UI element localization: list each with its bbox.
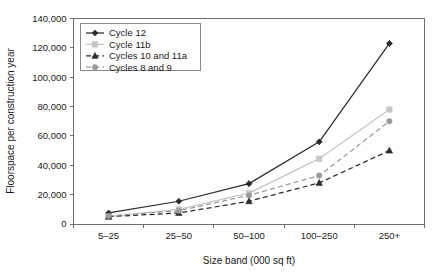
y-tick-label: 140,000	[32, 13, 66, 24]
x-tick-label: 100–250	[301, 230, 338, 241]
legend-label: Cycles 8 and 9	[109, 62, 172, 73]
y-tick-label: 120,000	[32, 42, 66, 53]
y-tick-label: 40,000	[37, 160, 66, 171]
x-axis-title: Size band (000 sq ft)	[203, 255, 295, 266]
data-point-circle	[246, 193, 251, 198]
legend-label: Cycles 10 and 11a	[109, 50, 188, 61]
x-tick-label: 5–25	[98, 230, 119, 241]
y-axis: 020,00040,00060,00080,000100,000120,0001…	[32, 13, 73, 230]
data-point-circle	[106, 213, 111, 218]
data-point-circle	[92, 65, 97, 70]
line-chart: 020,00040,00060,00080,000100,000120,0001…	[0, 0, 437, 272]
data-point-circle	[387, 119, 392, 124]
data-point-square	[92, 42, 97, 47]
data-point-circle	[317, 173, 322, 178]
y-tick-label: 0	[61, 218, 66, 229]
x-tick-label: 50–100	[233, 230, 265, 241]
data-point-square	[387, 107, 392, 112]
legend-label: Cycle 12	[109, 27, 146, 38]
x-axis: 5–2525–5050–100100–250250+	[74, 224, 425, 241]
data-point-circle	[176, 208, 181, 213]
x-tick-label: 25–50	[166, 230, 192, 241]
y-tick-label: 100,000	[32, 72, 66, 83]
legend-label: Cycle 11b	[109, 39, 151, 50]
y-tick-label: 80,000	[37, 101, 66, 112]
x-tick-label: 250+	[379, 230, 401, 241]
y-tick-label: 60,000	[37, 130, 66, 141]
y-axis-title: Floorspace per construction year	[5, 48, 16, 194]
chart-legend: Cycle 12Cycle 11bCycles 10 and 11aCycles…	[81, 24, 201, 73]
data-point-square	[317, 156, 322, 161]
y-tick-label: 20,000	[37, 189, 66, 200]
chart-canvas: 020,00040,00060,00080,000100,000120,0001…	[0, 0, 437, 272]
